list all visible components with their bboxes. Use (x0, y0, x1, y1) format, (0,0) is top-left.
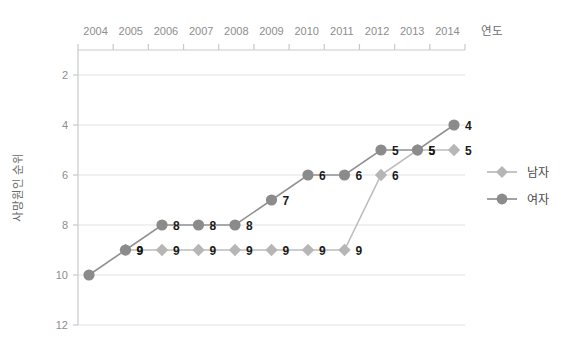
legend-diamond-icon (496, 166, 508, 178)
legend-item[interactable]: 남자 (487, 166, 549, 180)
x-tick-label: 2014 (435, 25, 459, 37)
legend: 남자여자 (487, 166, 549, 207)
x-tick-label: 2004 (83, 25, 107, 37)
data-label: 5 (392, 144, 399, 158)
y-tick-label: 6 (62, 169, 68, 181)
line-chart: 2004200520062007200820092010201120122013… (0, 0, 573, 361)
legend-label: 여자 (527, 193, 549, 207)
data-point (229, 219, 240, 230)
y-tick-label: 2 (62, 69, 68, 81)
x-tick-label: 2012 (365, 25, 389, 37)
data-point (156, 219, 167, 230)
data-point (120, 244, 131, 255)
x-axis: 2004200520062007200820092010201120122013… (78, 25, 503, 50)
data-label: 9 (137, 244, 144, 258)
chart-container: 2004200520062007200820092010201120122013… (0, 0, 573, 361)
y-tick-label: 12 (56, 319, 68, 331)
y-tick-label: 4 (62, 119, 68, 131)
data-label: 8 (246, 219, 253, 233)
data-point (266, 194, 277, 205)
data-labels: 9888766554 (137, 119, 473, 258)
x-tick-label: 2008 (224, 25, 248, 37)
data-point (338, 244, 350, 256)
data-point (302, 244, 314, 256)
data-label: 5 (429, 144, 436, 158)
data-point (448, 119, 459, 130)
data-point (375, 169, 387, 181)
data-point (193, 219, 204, 230)
x-tick-label: 2011 (330, 25, 354, 37)
series-male (119, 144, 460, 256)
data-label: 6 (356, 169, 363, 183)
data-label: 9 (319, 244, 326, 258)
data-point (448, 144, 460, 156)
data-labels: 9999999655 (137, 144, 473, 258)
legend-label: 남자 (527, 166, 549, 180)
data-label: 9 (283, 244, 290, 258)
data-label: 8 (173, 219, 180, 233)
x-tick-label: 2007 (189, 25, 213, 37)
data-point (302, 169, 313, 180)
gridlines (78, 50, 465, 325)
data-point (412, 144, 423, 155)
x-axis-title: 연도 (481, 25, 503, 37)
data-label: 9 (356, 244, 363, 258)
data-point (156, 244, 168, 256)
legend-item[interactable]: 여자 (487, 193, 549, 207)
y-tick-label: 8 (62, 219, 68, 231)
data-point (83, 269, 94, 280)
data-label: 6 (319, 169, 326, 183)
data-label: 9 (246, 244, 253, 258)
data-point (375, 144, 386, 155)
data-label: 7 (283, 194, 290, 208)
data-label: 5 (465, 144, 472, 158)
data-point (265, 244, 277, 256)
y-axis-title: 사망원인 순위 (11, 153, 24, 222)
legend-circle-icon (497, 194, 508, 205)
data-label: 9 (173, 244, 180, 258)
x-tick-label: 2006 (154, 25, 178, 37)
data-label: 8 (210, 219, 217, 233)
data-point (192, 244, 204, 256)
data-label: 6 (392, 169, 399, 183)
y-axis: 24681012사망원인 순위 (11, 69, 78, 331)
data-label: 4 (465, 119, 472, 133)
x-tick-label: 2013 (400, 25, 424, 37)
x-tick-label: 2009 (259, 25, 283, 37)
data-point (229, 244, 241, 256)
x-tick-label: 2005 (119, 25, 143, 37)
data-point (339, 169, 350, 180)
y-tick-label: 10 (56, 269, 68, 281)
data-label: 9 (210, 244, 217, 258)
x-tick-label: 2010 (294, 25, 318, 37)
